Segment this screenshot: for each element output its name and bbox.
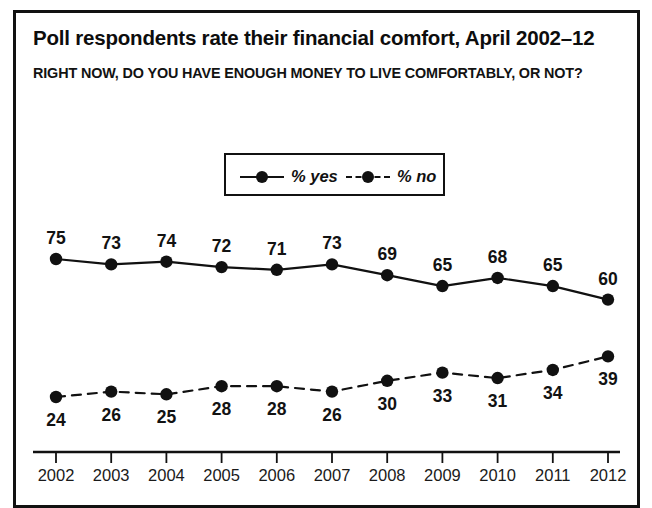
x-tick-label: 2012 xyxy=(578,466,638,485)
data-point-label: 24 xyxy=(36,410,76,431)
x-tick-label: 2010 xyxy=(468,466,528,485)
legend-label-no: % no xyxy=(397,167,436,186)
data-point-marker xyxy=(271,380,283,392)
data-point-label: 65 xyxy=(533,255,573,276)
data-point-label: 75 xyxy=(36,228,76,249)
data-point-marker xyxy=(436,366,448,378)
data-point-marker xyxy=(105,385,117,397)
x-tick-label: 2002 xyxy=(26,466,86,485)
data-point-marker xyxy=(50,253,62,265)
data-point-label: 26 xyxy=(91,405,131,426)
legend-line-dashed-icon xyxy=(346,170,390,184)
data-point-marker xyxy=(436,280,448,292)
data-point-label: 26 xyxy=(312,405,352,426)
data-point-label: 68 xyxy=(478,247,518,268)
data-point-marker xyxy=(326,258,338,270)
data-point-label: 25 xyxy=(146,407,186,428)
data-point-marker xyxy=(271,264,283,276)
data-point-marker xyxy=(381,375,393,387)
x-tick-label: 2007 xyxy=(302,466,362,485)
x-tick-label: 2011 xyxy=(523,466,583,485)
data-point-label: 71 xyxy=(257,239,297,260)
data-point-label: 30 xyxy=(367,394,407,415)
data-point-label: 31 xyxy=(478,391,518,412)
data-point-marker xyxy=(160,388,172,400)
chart-legend: % yes % no xyxy=(224,153,445,196)
data-point-marker xyxy=(326,385,338,397)
data-point-marker xyxy=(547,280,559,292)
x-tick-label: 2009 xyxy=(412,466,472,485)
legend-label-yes: % yes xyxy=(291,167,338,186)
data-point-marker xyxy=(105,258,117,270)
data-point-marker xyxy=(547,364,559,376)
data-point-label: 73 xyxy=(312,233,352,254)
data-point-marker xyxy=(602,350,614,362)
x-tick-label: 2006 xyxy=(247,466,307,485)
x-tick-label: 2004 xyxy=(136,466,196,485)
x-tick-label: 2003 xyxy=(81,466,141,485)
data-point-marker xyxy=(215,380,227,392)
data-point-label: 39 xyxy=(588,369,628,390)
data-point-marker xyxy=(602,293,614,305)
data-point-marker xyxy=(381,269,393,281)
x-tick-label: 2008 xyxy=(357,466,417,485)
data-point-marker xyxy=(491,272,503,284)
data-point-marker xyxy=(50,391,62,403)
legend-item-yes: % yes xyxy=(240,155,338,198)
data-point-label: 74 xyxy=(146,231,186,252)
data-point-label: 72 xyxy=(202,236,242,257)
data-point-label: 60 xyxy=(588,269,628,290)
data-point-label: 73 xyxy=(91,233,131,254)
data-point-marker xyxy=(491,372,503,384)
data-point-label: 28 xyxy=(202,399,242,420)
data-point-label: 65 xyxy=(422,255,462,276)
data-point-marker xyxy=(160,256,172,268)
data-point-marker xyxy=(215,261,227,273)
data-point-label: 69 xyxy=(367,244,407,265)
data-point-label: 34 xyxy=(533,383,573,404)
legend-item-no: % no xyxy=(346,155,436,198)
legend-line-solid-icon xyxy=(240,170,284,184)
data-point-label: 33 xyxy=(422,386,462,407)
data-point-label: 28 xyxy=(257,399,297,420)
x-tick-label: 2005 xyxy=(192,466,252,485)
